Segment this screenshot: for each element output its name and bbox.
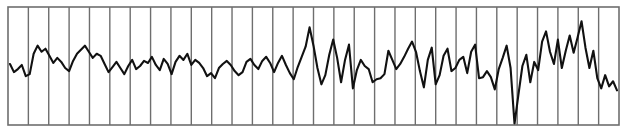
waveform-chart — [0, 0, 625, 133]
chart-canvas — [0, 0, 625, 133]
